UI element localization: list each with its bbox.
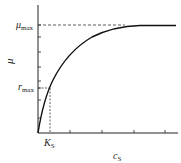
mu-max-label: μmax xyxy=(15,19,34,32)
monod-curve xyxy=(38,26,176,134)
x-axis-label: cS xyxy=(113,150,121,163)
ks-label: KS xyxy=(43,137,55,150)
monod-chart: μmax μ rmax KS cS xyxy=(0,0,181,163)
y-axis-label: μ xyxy=(3,58,15,65)
r-max-label: rmax xyxy=(18,81,34,94)
